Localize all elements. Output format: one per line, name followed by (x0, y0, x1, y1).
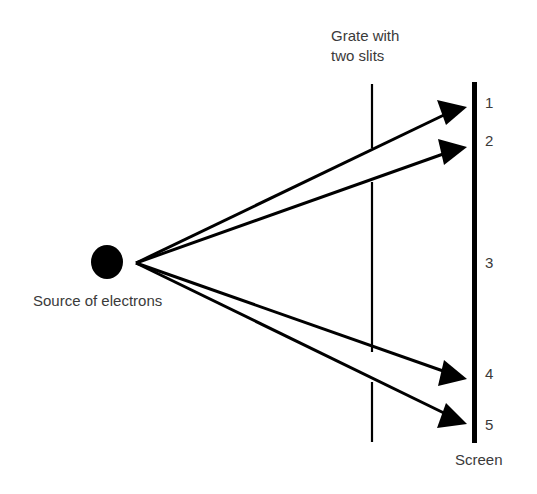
arrowhead-4-icon (438, 360, 467, 386)
screen-bar (472, 82, 477, 443)
screen-position-2: 2 (485, 133, 493, 149)
arrowhead-2-icon (438, 139, 467, 165)
path-to-4 (136, 263, 446, 372)
electron-paths (136, 114, 446, 414)
arrowhead-5-icon (437, 403, 467, 428)
arrowheads (437, 100, 467, 428)
path-to-1 (136, 114, 446, 263)
arrowhead-1-icon (437, 100, 467, 125)
electron-source-dot (91, 245, 123, 279)
grate-label-line-1: Grate with (331, 27, 399, 45)
source-label: Source of electrons (33, 292, 162, 310)
path-to-5 (136, 263, 446, 414)
grate-label: Grate with two slits (331, 27, 399, 65)
screen-label: Screen (455, 451, 503, 469)
screen-position-4: 4 (485, 366, 493, 382)
path-to-2 (136, 153, 446, 263)
screen-position-3: 3 (485, 255, 493, 271)
double-slit-diagram (0, 0, 537, 494)
screen-position-1: 1 (485, 95, 493, 111)
screen-position-5: 5 (485, 417, 493, 433)
grate-label-line-2: two slits (331, 47, 399, 65)
